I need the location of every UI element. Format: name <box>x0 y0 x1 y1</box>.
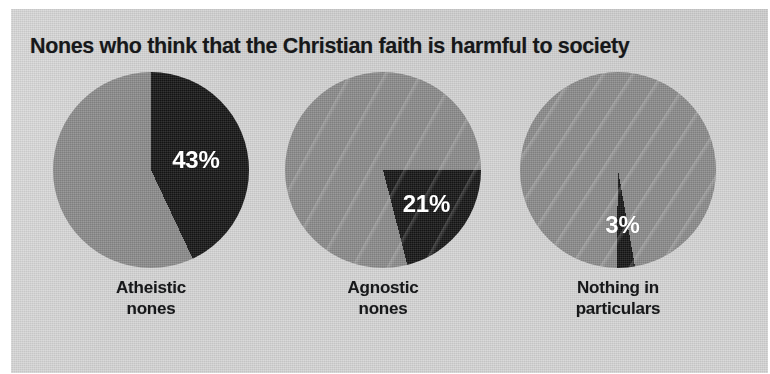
pie-chart-nothing-in-particulars: 3% <box>520 72 716 268</box>
pie-panel-nothing-in-particulars: 3% Nothing in particulars <box>498 72 738 362</box>
pie-category-label-atheistic-nones: Atheistic nones <box>31 277 271 319</box>
pie-category-label-line2: particulars <box>498 298 738 319</box>
pie-value-label-atheistic-nones: 43% <box>172 146 219 174</box>
pie-slices-agnostic-nones <box>285 72 481 268</box>
pie-chart-agnostic-nones: 21% <box>285 72 481 268</box>
pie-category-label-nothing-in-particulars: Nothing in particulars <box>498 277 738 319</box>
pie-value-label-nothing-in-particulars: 3% <box>605 211 639 239</box>
pie-category-label-line1: Nothing in <box>498 277 738 298</box>
pie-category-label-line1: Atheistic <box>31 277 271 298</box>
chart-figure: Nones who think that the Christian faith… <box>0 0 770 374</box>
pie-chart-atheistic-nones: 43% <box>53 72 249 268</box>
pie-panel-agnostic-nones: 21% Agnostic nones <box>263 72 503 362</box>
pie-value-label-agnostic-nones: 21% <box>403 190 450 218</box>
pie-panel-atheistic-nones: 43% Atheistic nones <box>31 72 271 362</box>
pie-category-label-agnostic-nones: Agnostic nones <box>263 277 503 319</box>
pie-category-label-line2: nones <box>263 298 503 319</box>
pie-category-label-line2: nones <box>31 298 271 319</box>
chart-panel: Nones who think that the Christian faith… <box>11 9 768 373</box>
pie-category-label-line1: Agnostic <box>263 277 503 298</box>
chart-title: Nones who think that the Christian faith… <box>30 34 629 59</box>
